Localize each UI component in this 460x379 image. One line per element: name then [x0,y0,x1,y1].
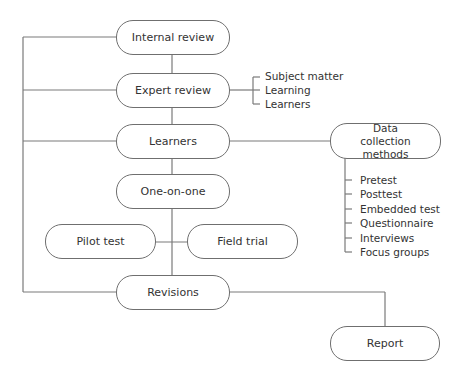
node-one-on-one: One-on-one [116,174,230,209]
node-data-collection-methods: Data collection methods [330,123,441,159]
method-focus-groups: Focus groups [360,246,429,259]
node-pilot-test: Pilot test [45,224,156,259]
method-interviews: Interviews [360,232,414,245]
aspect-learners: Learners [265,98,311,111]
node-field-trial: Field trial [187,224,298,259]
node-revisions: Revisions [116,275,230,310]
method-embedded-test: Embedded test [360,203,440,216]
aspect-learning: Learning [265,84,311,97]
node-internal-review: Internal review [116,20,230,55]
method-questionnaire: Questionnaire [360,217,434,230]
method-posttest: Posttest [360,188,402,201]
aspect-subject-matter: Subject matter [265,70,343,83]
node-learners: Learners [116,124,230,159]
node-report: Report [330,326,440,361]
node-expert-review: Expert review [116,73,230,108]
method-pretest: Pretest [360,174,397,187]
